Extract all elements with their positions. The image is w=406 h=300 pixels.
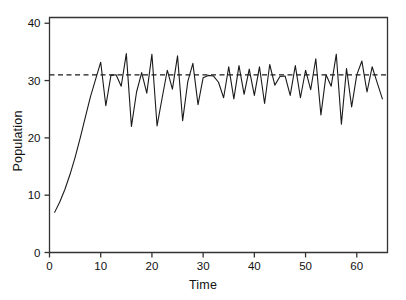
svg-text:30: 30 bbox=[28, 75, 41, 87]
svg-text:20: 20 bbox=[28, 132, 41, 144]
svg-text:50: 50 bbox=[299, 260, 312, 272]
svg-text:20: 20 bbox=[146, 260, 159, 272]
population-time-line-chart: 0102030405060 010203040 bbox=[0, 0, 406, 300]
svg-text:0: 0 bbox=[34, 247, 40, 259]
y-axis-title: Population bbox=[11, 86, 25, 196]
svg-text:60: 60 bbox=[350, 260, 363, 272]
svg-text:40: 40 bbox=[28, 17, 41, 29]
svg-text:0: 0 bbox=[46, 260, 52, 272]
svg-text:40: 40 bbox=[248, 260, 261, 272]
svg-text:30: 30 bbox=[197, 260, 210, 272]
svg-text:10: 10 bbox=[28, 189, 41, 201]
chart-figure: 0102030405060 010203040 Time Population bbox=[0, 0, 406, 300]
svg-text:10: 10 bbox=[94, 260, 107, 272]
x-axis-title: Time bbox=[0, 278, 406, 292]
